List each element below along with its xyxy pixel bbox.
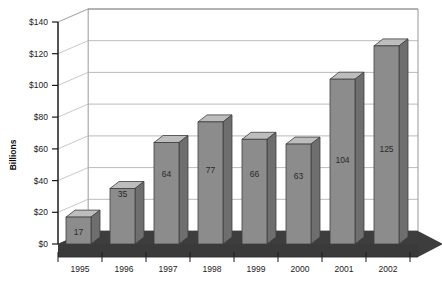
bar-side-face <box>267 132 276 244</box>
bar-side-face <box>135 182 144 245</box>
bar-2000[interactable]: 63 <box>286 137 320 244</box>
bar-side-face <box>355 72 364 244</box>
y-tick-label: $80 <box>34 112 48 122</box>
bar-value-label: 35 <box>118 189 128 199</box>
bar-value-label: 17 <box>74 227 84 237</box>
x-tick-label: 2001 <box>335 264 354 274</box>
x-tick-label: 1996 <box>115 264 134 274</box>
bar-chart-3d: 17 35 64 77 <box>0 0 442 283</box>
bar-value-label: 77 <box>206 165 216 175</box>
y-tick-label: $0 <box>39 239 49 249</box>
bar-front-face <box>198 122 223 244</box>
y-tick-label: $20 <box>34 207 48 217</box>
x-tick-label: 1999 <box>247 264 266 274</box>
x-tick-label: 1995 <box>71 264 90 274</box>
y-tick-label: $40 <box>34 176 48 186</box>
plot-left-wall <box>58 9 88 244</box>
x-tick-label: 2000 <box>291 264 310 274</box>
bar-1995[interactable]: 17 <box>66 210 100 244</box>
bar-value-label: 63 <box>294 171 304 181</box>
y-axis-title: Billions <box>8 139 18 170</box>
bar-value-label: 125 <box>379 144 393 154</box>
bar-1996[interactable]: 35 <box>110 182 144 245</box>
bar-side-face <box>179 136 188 245</box>
bar-1997[interactable]: 64 <box>154 136 188 245</box>
bar-side-face <box>399 39 408 244</box>
x-tick-label: 2002 <box>379 264 398 274</box>
bar-front-face <box>154 143 179 245</box>
bar-1999[interactable]: 66 <box>242 132 276 244</box>
x-tick-label: 1997 <box>159 264 178 274</box>
bar-front-face <box>242 139 267 244</box>
bar-value-label: 64 <box>162 169 172 179</box>
y-tick-label: $120 <box>29 49 48 59</box>
bar-2001[interactable]: 104 <box>330 72 364 244</box>
y-tick-label: $60 <box>34 144 48 154</box>
bar-front-face <box>286 144 311 244</box>
x-tick-label: 1998 <box>203 264 222 274</box>
bar-value-label: 104 <box>335 155 349 165</box>
chart-container: 17 35 64 77 <box>0 0 442 283</box>
bar-1998[interactable]: 77 <box>198 115 232 244</box>
bar-side-face <box>311 137 320 244</box>
plot-floor-front <box>58 244 418 257</box>
y-tick-label: $140 <box>29 17 48 27</box>
bar-2002[interactable]: 125 <box>374 39 408 244</box>
bar-value-label: 66 <box>250 169 260 179</box>
bar-side-face <box>223 115 232 244</box>
y-tick-label: $100 <box>29 80 48 90</box>
